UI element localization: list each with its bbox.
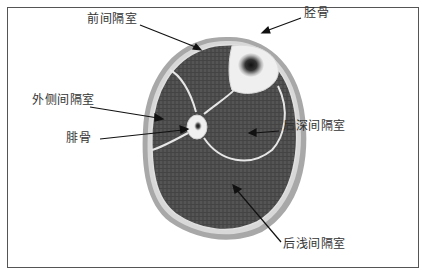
- label-deep-posterior-compartment: 后深间隔室: [283, 119, 346, 133]
- fibula-marrow: [194, 121, 202, 131]
- tibia-marrow: [238, 53, 264, 77]
- label-lateral-compartment: 外侧间隔室: [32, 93, 95, 107]
- label-superficial-posterior-compartment: 后浅间隔室: [283, 237, 346, 251]
- label-fibula: 腓骨: [66, 131, 91, 145]
- label-tibia: 胫骨: [304, 6, 329, 20]
- label-anterior-compartment: 前间隔室: [87, 12, 137, 26]
- leg-cross-section: [0, 0, 427, 278]
